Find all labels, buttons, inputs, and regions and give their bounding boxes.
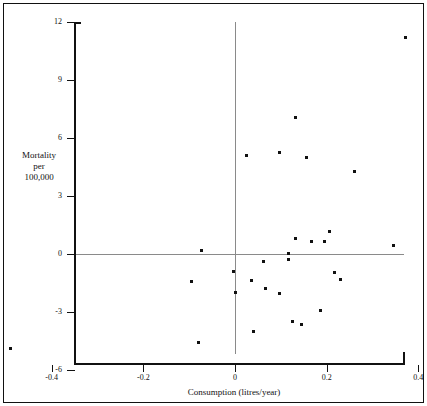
data-point: [252, 330, 255, 333]
x-tick-mark: [52, 365, 53, 372]
y-axis-title-line: per: [6, 161, 72, 172]
data-point: [294, 116, 297, 119]
y-tick-mark: [67, 138, 75, 139]
y-axis-title: Mortalityper100,000: [6, 150, 72, 183]
data-point: [245, 154, 248, 157]
y-tick-label: 0: [40, 250, 62, 258]
x-tick-mark: [327, 365, 328, 372]
y-tick-mark: [67, 312, 75, 313]
y-tick-mark: [67, 370, 75, 371]
data-point: [250, 279, 253, 282]
y-tick-mark: [67, 22, 75, 23]
data-point: [264, 287, 267, 290]
data-point: [323, 240, 326, 243]
data-point: [262, 260, 265, 263]
y-tick-label: 6: [40, 134, 62, 142]
x-tick-label: -0.4: [32, 374, 72, 382]
y-axis-top-cap: [74, 22, 81, 24]
y-tick-mark: [67, 254, 75, 255]
data-point: [305, 156, 308, 159]
data-point: [319, 309, 322, 312]
data-point: [197, 341, 200, 344]
plot-area: 129630-3-6 -0.6-0.4-0.200.20.40.6 Mortal…: [0, 0, 427, 406]
x-tick-label: 0.4: [398, 374, 427, 382]
scatter-plot-figure: 129630-3-6 -0.6-0.4-0.200.20.40.6 Mortal…: [0, 0, 427, 406]
data-point: [278, 151, 281, 154]
x-tick-mark: [235, 365, 236, 372]
data-point: [339, 278, 342, 281]
data-point: [392, 244, 395, 247]
y-axis-title-line: 100,000: [6, 172, 72, 183]
data-point: [404, 36, 407, 39]
x-tick-label: 0: [215, 374, 255, 382]
x-axis-line: [74, 363, 405, 365]
vertical-reference-line: [235, 22, 236, 354]
x-axis-title: Consumption (litres/year): [134, 387, 334, 397]
x-tick-label: -0.2: [123, 374, 163, 382]
data-point: [294, 237, 297, 240]
data-point: [328, 230, 331, 233]
data-point: [190, 280, 193, 283]
x-tick-mark: [418, 365, 419, 372]
x-axis-right-cap: [403, 352, 405, 365]
y-tick-mark: [67, 196, 75, 197]
data-point: [278, 292, 281, 295]
y-tick-label: 9: [40, 76, 62, 84]
y-axis-title-line: Mortality: [6, 150, 72, 161]
data-point: [310, 240, 313, 243]
horizontal-reference-line: [75, 254, 404, 255]
data-point: [232, 270, 235, 273]
y-tick-label: 3: [40, 192, 62, 200]
data-point: [234, 291, 237, 294]
data-point: [9, 347, 12, 350]
y-tick-mark: [67, 80, 75, 81]
data-point: [300, 323, 303, 326]
data-point: [291, 320, 294, 323]
y-tick-label: -3: [40, 308, 62, 316]
data-point: [200, 249, 203, 252]
x-tick-label: 0.2: [307, 374, 347, 382]
data-point: [333, 271, 336, 274]
y-axis-line: [74, 22, 76, 365]
x-tick-mark: [143, 365, 144, 372]
data-point: [287, 258, 290, 261]
y-tick-label: 12: [40, 18, 62, 26]
data-point: [353, 170, 356, 173]
data-point: [287, 252, 290, 255]
